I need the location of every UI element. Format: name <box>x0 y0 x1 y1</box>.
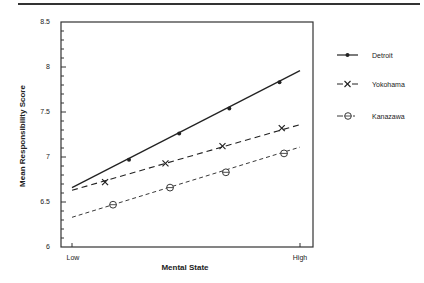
data-point <box>277 80 281 84</box>
x-tick-label-low: Low <box>67 254 81 261</box>
y-tick-8: 8 <box>46 63 50 70</box>
series-kanazawa <box>72 147 300 217</box>
line-chart: 8.5 8 7.5 7 6.5 6 Low High Mental State … <box>0 0 424 283</box>
data-point <box>279 125 285 131</box>
y-tick-6.5: 6.5 <box>40 198 50 205</box>
y-tick-6: 6 <box>46 243 50 250</box>
data-point <box>219 143 225 149</box>
y-tick-7: 7 <box>46 153 50 160</box>
x-tick-label-high: High <box>293 254 308 262</box>
legend-label-kanazawa: Kanazawa <box>372 113 405 120</box>
data-point <box>223 169 230 176</box>
series-layer <box>72 71 300 218</box>
legend-item-yokohama: Yokohama <box>337 81 405 88</box>
data-point <box>162 160 168 166</box>
legend-label-yokohama: Yokohama <box>372 81 405 88</box>
y-tick-8.5: 8.5 <box>40 18 50 25</box>
series-yokohama <box>72 125 300 191</box>
y-axis-title: Mean Responsibility Score <box>18 85 27 187</box>
open-circle-marker-icon <box>345 113 352 120</box>
y-tick-7.5: 7.5 <box>40 108 50 115</box>
y-axis-ticks <box>61 31 66 238</box>
series-detroit <box>72 71 300 188</box>
x-marker-icon <box>345 81 351 87</box>
data-point <box>127 158 131 162</box>
data-point <box>177 132 181 136</box>
legend-item-kanazawa: Kanazawa <box>337 113 405 120</box>
plot-frame <box>61 22 313 247</box>
legend: Detroit Yokohama Kanazawa <box>337 52 405 120</box>
data-point <box>167 184 174 191</box>
data-point <box>102 179 108 185</box>
data-point <box>110 201 117 208</box>
legend-item-detroit: Detroit <box>337 52 393 59</box>
legend-label-detroit: Detroit <box>372 52 393 59</box>
data-point <box>227 106 231 110</box>
x-axis-title: Mental State <box>161 263 209 272</box>
data-point <box>281 150 288 157</box>
filled-circle-marker-icon <box>346 53 350 57</box>
